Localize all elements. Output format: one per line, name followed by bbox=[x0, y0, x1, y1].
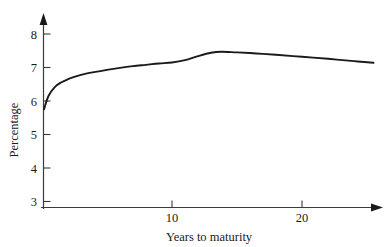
y-tick-label-3: 3 bbox=[31, 195, 37, 209]
x-tick-label-10: 10 bbox=[166, 211, 179, 225]
x-axis-title: Years to maturity bbox=[166, 230, 253, 244]
y-tick-marks bbox=[44, 34, 51, 202]
y-tick-label-8: 8 bbox=[31, 28, 37, 42]
yield-curve-chart: 8 7 6 5 4 3 10 20 Percentage Years to ma… bbox=[0, 0, 390, 247]
y-axis-arrowhead bbox=[40, 13, 48, 25]
x-tick-label-20: 20 bbox=[296, 211, 309, 225]
y-tick-label-6: 6 bbox=[31, 95, 37, 109]
y-axis bbox=[40, 13, 48, 209]
y-axis-title: Percentage bbox=[7, 102, 21, 157]
y-tick-label-4: 4 bbox=[31, 162, 38, 176]
y-tick-label-7: 7 bbox=[31, 61, 37, 75]
y-tick-label-5: 5 bbox=[31, 128, 37, 142]
x-tick-marks bbox=[172, 201, 302, 208]
yield-curve-line bbox=[44, 52, 374, 110]
chart-svg: 8 7 6 5 4 3 10 20 Percentage Years to ma… bbox=[0, 0, 390, 247]
x-axis bbox=[41, 204, 383, 212]
x-axis-arrowhead bbox=[371, 204, 383, 212]
